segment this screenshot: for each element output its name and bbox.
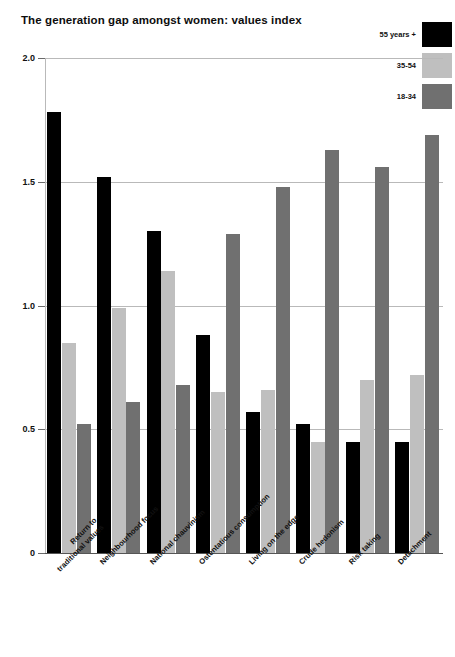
plot-area: 00.51.01.52.0 Return to traditional valu… bbox=[45, 58, 443, 553]
bar-group bbox=[246, 58, 290, 553]
bar bbox=[246, 412, 260, 553]
x-axis-line bbox=[38, 553, 443, 554]
y-axis-tick-label: 1.5 bbox=[22, 177, 35, 187]
legend-item: 55 years + bbox=[340, 22, 452, 47]
bar bbox=[346, 442, 360, 553]
bar bbox=[97, 177, 111, 553]
bar bbox=[425, 135, 439, 553]
y-axis-tick bbox=[38, 58, 45, 59]
bar-group bbox=[395, 58, 439, 553]
y-axis-tick bbox=[38, 553, 45, 554]
page-title: The generation gap amongst women: values… bbox=[21, 14, 302, 26]
bar bbox=[296, 424, 310, 553]
bar bbox=[211, 392, 225, 553]
bar bbox=[47, 112, 61, 553]
bar bbox=[62, 343, 76, 553]
y-axis-tick bbox=[38, 182, 45, 183]
y-axis-tick bbox=[38, 429, 45, 430]
bar bbox=[410, 375, 424, 553]
bar bbox=[226, 234, 240, 553]
bar-group bbox=[47, 58, 91, 553]
bar-group bbox=[147, 58, 191, 553]
bar-group bbox=[97, 58, 141, 553]
bar-group bbox=[346, 58, 390, 553]
y-axis-tick-label: 2.0 bbox=[22, 53, 35, 63]
bar bbox=[325, 150, 339, 553]
bar-group bbox=[196, 58, 240, 553]
y-axis-tick-label: 1.0 bbox=[22, 301, 35, 311]
y-axis-tick-label: 0.5 bbox=[22, 424, 35, 434]
y-axis-tick bbox=[38, 306, 45, 307]
bar bbox=[261, 390, 275, 553]
chart-container: The generation gap amongst women: values… bbox=[0, 0, 455, 657]
bar bbox=[360, 380, 374, 553]
legend-item-label: 55 years + bbox=[380, 30, 417, 39]
bar bbox=[161, 271, 175, 553]
legend-color-swatch bbox=[422, 22, 452, 47]
bar bbox=[375, 167, 389, 553]
y-axis-tick-label: 0 bbox=[30, 548, 35, 558]
bar bbox=[276, 187, 290, 553]
bar bbox=[112, 308, 126, 553]
bar bbox=[395, 442, 409, 553]
bar-group bbox=[296, 58, 340, 553]
